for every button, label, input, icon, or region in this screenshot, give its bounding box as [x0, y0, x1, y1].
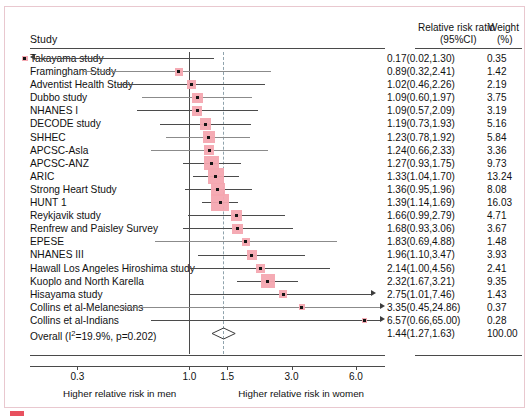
- axis-tick-label: 6.0: [349, 371, 363, 382]
- forest-row: [0, 52, 530, 65]
- forest-row: [0, 118, 530, 131]
- point-estimate-marker: [177, 70, 180, 73]
- forest-row: [0, 196, 530, 209]
- forest-row: [0, 91, 530, 104]
- column-header-weight: Weight: [488, 22, 519, 33]
- point-estimate-marker: [266, 280, 269, 283]
- axis-tick-label: 0.3: [71, 371, 85, 382]
- column-header-weight-units: (%): [497, 34, 513, 45]
- axis-tick: [77, 366, 78, 370]
- axis-tick-label: 1.5: [220, 371, 234, 382]
- forest-row: [0, 235, 530, 248]
- ci-right-arrow: [371, 290, 376, 296]
- axis-caption-right: Higher relative risk in women: [238, 388, 364, 399]
- forest-row: [0, 222, 530, 235]
- pooled-diamond: [209, 327, 238, 340]
- forest-plot-canvas: [0, 48, 530, 358]
- point-estimate-marker: [208, 149, 211, 152]
- forest-row: [0, 183, 530, 196]
- axis-tick: [356, 366, 357, 370]
- point-estimate-marker: [244, 240, 247, 243]
- point-estimate-marker: [236, 227, 239, 230]
- point-estimate-marker: [196, 96, 199, 99]
- axis-tick-label: 1.0: [182, 371, 196, 382]
- point-estimate-marker: [219, 201, 222, 204]
- forest-row: [0, 327, 530, 340]
- forest-row: [0, 262, 530, 275]
- column-header-study: Study: [30, 33, 57, 45]
- forest-row: [0, 275, 530, 288]
- forest-row: [0, 157, 530, 170]
- forest-row: [0, 144, 530, 157]
- point-estimate-marker: [23, 57, 26, 60]
- forest-row: [0, 209, 530, 222]
- point-estimate-marker: [300, 306, 303, 309]
- confidence-interval-line: [115, 307, 380, 308]
- confidence-interval-line: [35, 58, 214, 59]
- forest-row: [0, 65, 530, 78]
- axis-caption-left: Higher relative risk in men: [63, 388, 176, 399]
- forest-row: [0, 78, 530, 91]
- point-estimate-marker: [363, 319, 366, 322]
- axis-tick-label: 3.0: [285, 371, 299, 382]
- plot-wrapper: Study Relative risk ratio (95%CI) Weight…: [0, 0, 530, 418]
- point-estimate-marker: [214, 175, 217, 178]
- forest-row: [0, 104, 530, 117]
- point-estimate-marker: [196, 109, 199, 112]
- forest-row: [0, 249, 530, 262]
- confidence-interval-line: [151, 320, 380, 321]
- point-estimate-marker: [216, 188, 219, 191]
- x-axis-line: [30, 366, 385, 367]
- ci-right-arrow: [380, 303, 385, 309]
- forest-row: [0, 170, 530, 183]
- axis-tick: [189, 366, 190, 370]
- ci-left-arrow: [30, 54, 35, 60]
- axis-tick: [227, 366, 228, 370]
- point-estimate-marker: [207, 136, 210, 139]
- point-estimate-marker: [210, 162, 213, 165]
- column-header-confidence-interval: (95%CI): [440, 34, 477, 45]
- point-estimate-marker: [190, 83, 193, 86]
- forest-row: [0, 314, 530, 327]
- forest-row: [0, 131, 530, 144]
- forest-row: [0, 288, 530, 301]
- point-estimate-marker: [204, 123, 207, 126]
- forest-row: [0, 301, 530, 314]
- ci-right-arrow: [380, 316, 385, 322]
- page-accent-mark: [10, 411, 24, 416]
- point-estimate-marker: [235, 214, 238, 217]
- column-header-relative-risk: Relative risk ratio: [418, 22, 495, 33]
- point-estimate-marker: [250, 254, 253, 257]
- forest-plot-figure: Study Relative risk ratio (95%CI) Weight…: [0, 0, 530, 418]
- axis-tick: [292, 366, 293, 370]
- point-estimate-marker: [282, 293, 285, 296]
- point-estimate-marker: [259, 267, 262, 270]
